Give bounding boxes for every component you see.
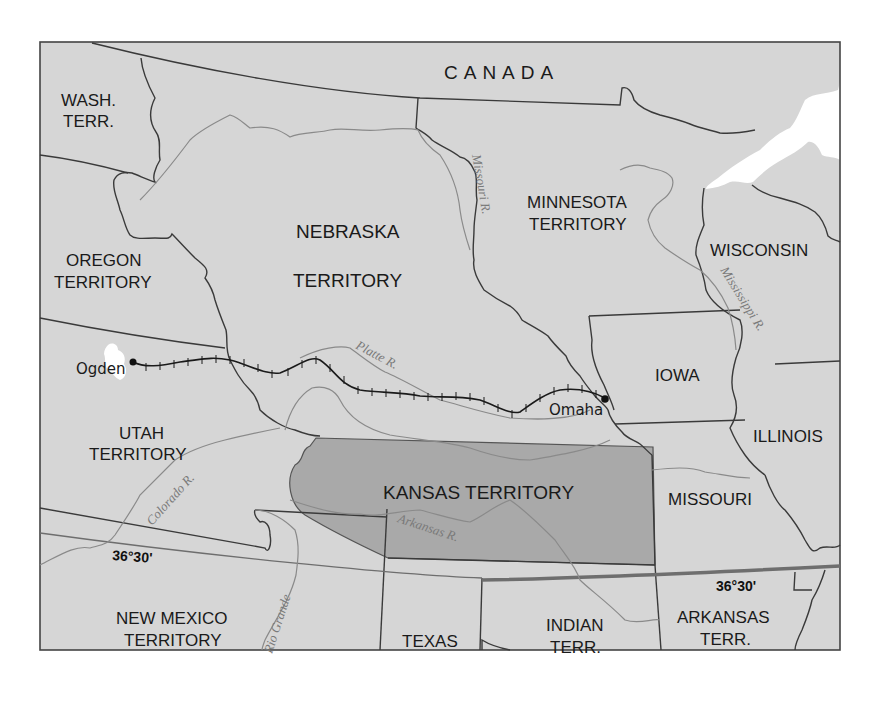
label-parallel-east: 36°30' [716, 578, 756, 594]
label-indian-line2: TERR. [550, 638, 601, 657]
label-minnesota-line1: MINNESOTA [527, 193, 627, 212]
label-oregon-line1: OREGON [66, 251, 142, 270]
label-missouri: MISSOURI [668, 490, 752, 509]
label-arkansas-line2: TERR. [700, 630, 751, 649]
label-kansas: KANSAS TERRITORY [383, 482, 574, 503]
label-ogden: Ogden [76, 360, 126, 378]
label-nebraska-line1: NEBRASKA [296, 221, 400, 242]
label-minnesota-line2: TERRITORY [529, 215, 627, 234]
label-utah-line2: TERRITORY [89, 445, 187, 464]
land-area [40, 42, 840, 350]
label-new-mexico-line2: TERRITORY [124, 631, 222, 650]
territorial-map: CANADA WASH. TERR. OREGON TERRITORY NEBR… [0, 0, 875, 711]
label-wisconsin: WISCONSIN [710, 241, 808, 260]
ogden-city-marker [130, 359, 137, 366]
label-iowa: IOWA [655, 366, 700, 385]
label-wash-line1: WASH. [61, 91, 116, 110]
label-canada: CANADA [444, 62, 559, 83]
label-indian-line1: INDIAN [546, 616, 604, 635]
label-arkansas-line1: ARKANSAS [677, 608, 770, 627]
label-oregon-line2: TERRITORY [54, 273, 152, 292]
label-new-mexico-line1: NEW MEXICO [116, 609, 227, 628]
label-parallel-west: 36°30' [112, 547, 153, 566]
label-nebraska-line2: TERRITORY [293, 270, 402, 291]
label-omaha: Omaha [549, 401, 603, 419]
label-wash-line2: TERR. [63, 112, 114, 131]
label-utah-line1: UTAH [119, 424, 164, 443]
label-illinois: ILLINOIS [753, 427, 823, 446]
label-texas: TEXAS [402, 632, 458, 651]
